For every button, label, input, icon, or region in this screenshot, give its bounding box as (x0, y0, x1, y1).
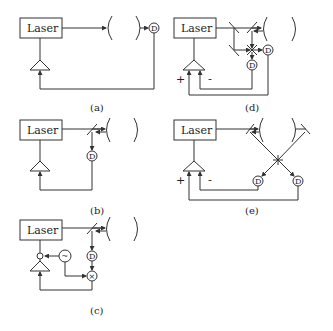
detector-label: D (249, 61, 255, 70)
detector-label: D (295, 177, 301, 186)
panel-a: Laser D (a) (20, 16, 159, 113)
differential-amplifier-icon (183, 60, 205, 70)
panel-e: Laser D D + - (e) (174, 118, 310, 216)
laser-label: Laser (181, 124, 213, 137)
panel-b: Laser D (b) (20, 118, 138, 216)
cavity-mirror-left (108, 16, 112, 40)
detector-label: D (151, 24, 157, 33)
detector-label: D (255, 177, 261, 186)
detector-label: D (265, 46, 271, 55)
laser-label: Laser (27, 22, 59, 35)
amplifier-icon (30, 261, 50, 271)
cavity-mirror-right (134, 217, 138, 241)
caption-d: (d) (245, 102, 259, 113)
laser-label: Laser (181, 22, 213, 35)
cavity-mirror-right (136, 16, 140, 40)
minus-sign: - (208, 173, 212, 186)
caption-a: (a) (90, 102, 104, 113)
caption-e: (e) (245, 205, 259, 216)
cavity-mirror-right (134, 118, 138, 142)
plus-sign: + (176, 73, 185, 86)
mixer-symbol: × (89, 272, 96, 281)
cavity-mirror-left (264, 17, 268, 41)
detector-label: D (89, 252, 95, 261)
oscillator-symbol: ~ (62, 252, 69, 261)
caption-b: (b) (90, 205, 104, 216)
panel-d: Laser D D + - (d) (174, 17, 296, 113)
differential-amplifier-icon (183, 161, 205, 171)
minus-sign: - (208, 72, 212, 85)
laser-label: Laser (27, 124, 59, 137)
amplifier-icon (30, 161, 50, 171)
caption-c: (c) (90, 305, 104, 316)
diagram-canvas: Laser D (a) Laser D (b) Laser (0, 0, 333, 331)
summing-junction-icon (37, 253, 43, 259)
cavity-mirror-right (292, 17, 296, 41)
panel-c: Laser D × ~ (c) (20, 217, 138, 316)
cavity-mirror-right (292, 118, 296, 142)
laser-label: Laser (27, 224, 59, 237)
cavity-mirror-left (107, 217, 111, 241)
detector-label: D (89, 152, 95, 161)
amplifier-icon (30, 60, 50, 70)
cavity-mirror-left (107, 118, 111, 142)
plus-sign: + (176, 174, 185, 187)
cavity-mirror-left (260, 118, 264, 142)
